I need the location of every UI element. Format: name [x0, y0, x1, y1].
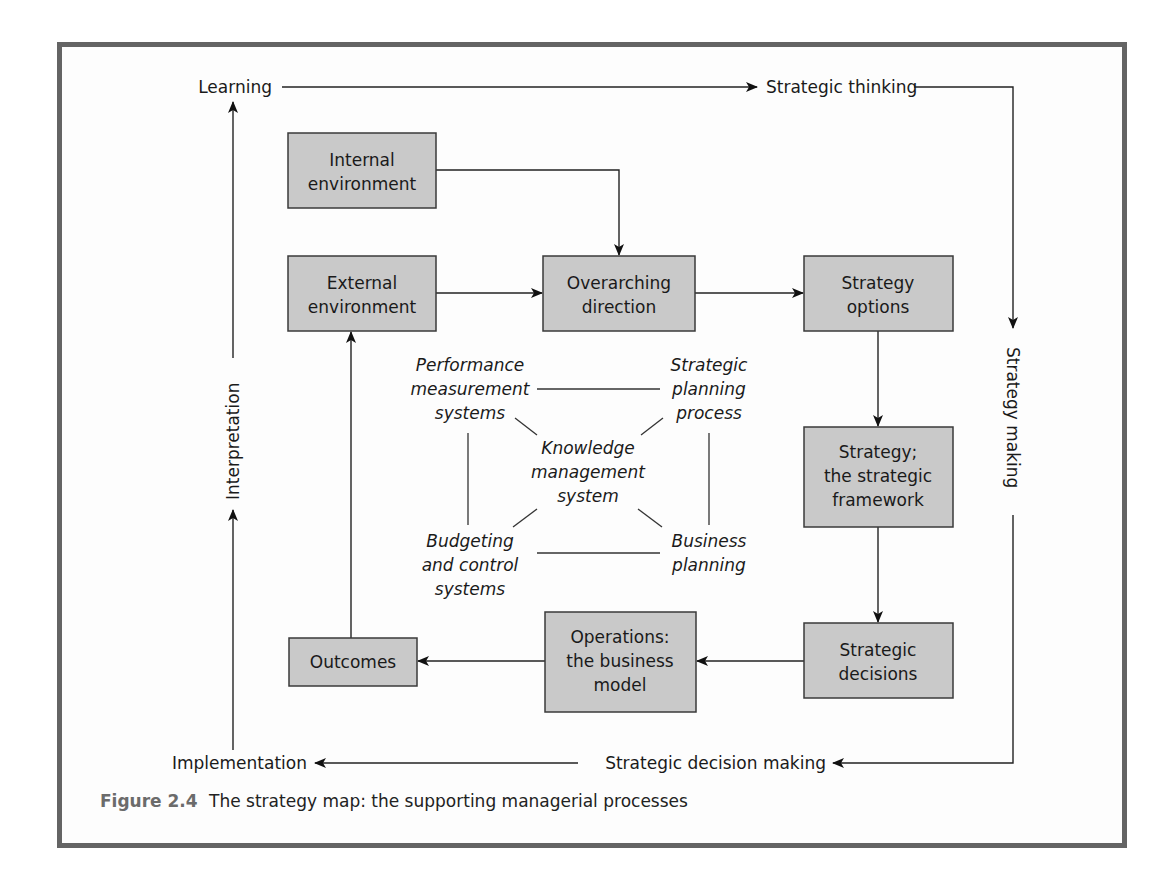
process-budgeting-control: Budgeting and control systems — [422, 531, 519, 599]
figure-number: Figure 2.4 — [100, 791, 198, 811]
svg-text:Business: Business — [672, 531, 747, 551]
svg-text:Operations:: Operations: — [570, 627, 669, 647]
process-performance-measurement: Performance measurement systems — [411, 355, 531, 423]
svg-text:systems: systems — [435, 403, 505, 423]
link-spp-kms — [641, 418, 663, 435]
label-learning: Learning — [198, 77, 272, 97]
svg-text:and control: and control — [422, 555, 519, 575]
process-business-planning: Business planning — [671, 531, 747, 575]
svg-text:framework: framework — [832, 490, 924, 510]
link-bp-kms — [638, 509, 662, 527]
link-bcs-kms — [513, 509, 537, 527]
arrow-internal-to-overarching — [436, 170, 619, 255]
box-external-environment: External environment — [288, 256, 436, 331]
svg-text:Performance: Performance — [416, 355, 525, 375]
svg-text:planning: planning — [671, 555, 746, 575]
box-operations: Operations: the business model — [545, 612, 696, 712]
box-internal-environment: Internal environment — [288, 133, 436, 208]
svg-text:Strategy: Strategy — [842, 273, 915, 293]
box-overarching-direction: Overarching direction — [543, 256, 695, 331]
strategy-map-diagram: Learning Strategic thinking Strategy mak… — [0, 0, 1176, 886]
figure-caption-text: The strategy map: the supporting manager… — [209, 791, 688, 811]
svg-text:Outcomes: Outcomes — [310, 652, 397, 672]
svg-text:the strategic: the strategic — [824, 466, 932, 486]
label-strategic-decision-making: Strategic decision making — [605, 753, 826, 773]
svg-text:External: External — [327, 273, 398, 293]
svg-text:process: process — [675, 403, 742, 423]
svg-text:Strategic: Strategic — [840, 640, 917, 660]
link-pms-kms — [515, 418, 537, 435]
svg-text:Internal: Internal — [329, 150, 395, 170]
svg-text:environment: environment — [308, 297, 417, 317]
box-strategy-framework: Strategy; the strategic framework — [804, 427, 953, 527]
label-strategic-thinking: Strategic thinking — [766, 77, 917, 97]
svg-text:systems: systems — [435, 579, 505, 599]
svg-text:management: management — [531, 462, 646, 482]
svg-text:planning: planning — [671, 379, 746, 399]
svg-text:Strategic: Strategic — [671, 355, 749, 375]
svg-text:Budgeting: Budgeting — [426, 531, 514, 551]
svg-text:the business: the business — [566, 651, 674, 671]
box-strategy-options: Strategy options — [804, 256, 953, 331]
label-interpretation: Interpretation — [223, 383, 243, 500]
svg-text:decisions: decisions — [839, 664, 918, 684]
box-outcomes: Outcomes — [289, 638, 417, 686]
box-strategic-decisions: Strategic decisions — [804, 623, 953, 698]
svg-text:Knowledge: Knowledge — [541, 438, 634, 458]
label-strategy-making: Strategy making — [1003, 347, 1023, 488]
figure-caption: Figure 2.4 The strategy map: the support… — [100, 791, 688, 811]
svg-text:system: system — [557, 486, 618, 506]
svg-text:environment: environment — [308, 174, 417, 194]
process-knowledge-management: Knowledge management system — [531, 438, 646, 506]
label-implementation: Implementation — [172, 753, 307, 773]
svg-text:measurement: measurement — [411, 379, 531, 399]
svg-text:Overarching: Overarching — [567, 273, 671, 293]
svg-text:direction: direction — [582, 297, 657, 317]
svg-text:model: model — [594, 675, 647, 695]
svg-text:options: options — [847, 297, 910, 317]
process-strategic-planning: Strategic planning process — [671, 355, 749, 423]
svg-text:Strategy;: Strategy; — [839, 442, 918, 462]
